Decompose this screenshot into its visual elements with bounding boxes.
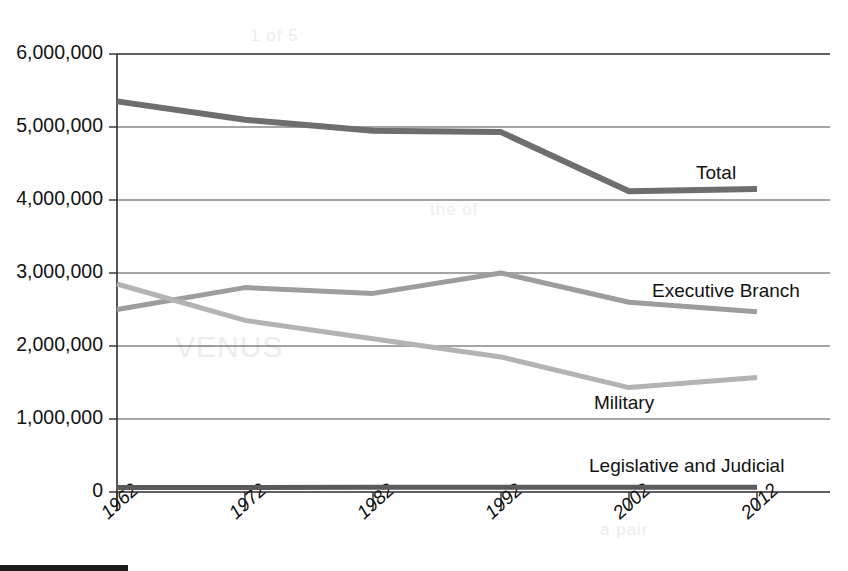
y-tick-labels: 6,000,000 5,000,000 4,000,000 3,000,000 … <box>16 41 103 501</box>
series-labels: Total Executive Branch Military Legislat… <box>589 162 800 476</box>
series-line-total <box>117 101 757 191</box>
ytick-label: 6,000,000 <box>16 41 103 63</box>
ytick-label: 3,000,000 <box>16 260 103 282</box>
series-label-military: Military <box>594 392 655 413</box>
ytick-label: 2,000,000 <box>16 333 103 355</box>
ytick-label: 1,000,000 <box>16 406 103 428</box>
ytick-label: 5,000,000 <box>16 114 103 136</box>
chart-figure: 1 of 5 VENUS the of a pair <box>0 0 848 571</box>
series-label-executive-branch: Executive Branch <box>652 280 800 301</box>
page-footer-rule <box>0 565 128 571</box>
series-label-total: Total <box>696 162 736 183</box>
x-tick-marks <box>117 492 757 510</box>
line-chart-svg: 6,000,000 5,000,000 4,000,000 3,000,000 … <box>0 0 848 571</box>
series-label-legislative-and-judicial: Legislative and Judicial <box>589 455 784 476</box>
y-tick-marks <box>109 54 117 492</box>
ytick-label: 4,000,000 <box>16 187 103 209</box>
ytick-label: 0 <box>92 479 103 501</box>
